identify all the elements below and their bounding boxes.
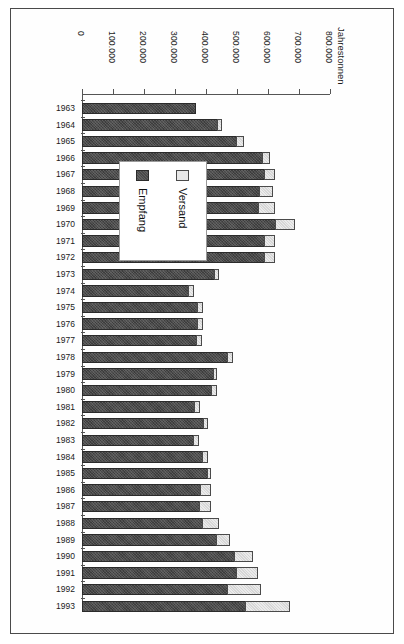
year-label: 1980 bbox=[41, 382, 75, 399]
bar-segment-versand[interactable] bbox=[203, 418, 208, 430]
bar-segment-empfang[interactable] bbox=[82, 335, 197, 347]
legend-swatch-empfang-icon bbox=[136, 170, 149, 181]
bar-segment-empfang[interactable] bbox=[82, 119, 218, 131]
stacked-bar[interactable] bbox=[82, 136, 244, 148]
stacked-bar[interactable] bbox=[82, 484, 211, 496]
bar-segment-versand[interactable] bbox=[213, 368, 218, 380]
stacked-bar[interactable] bbox=[82, 584, 261, 596]
year-label: 1986 bbox=[41, 482, 75, 499]
bar-segment-versand[interactable] bbox=[216, 534, 230, 546]
bar-segment-empfang[interactable] bbox=[82, 435, 194, 447]
bar-segment-versand[interactable] bbox=[199, 501, 211, 513]
bar-segment-empfang[interactable] bbox=[82, 103, 196, 115]
stacked-bar[interactable] bbox=[82, 534, 230, 546]
bar-segment-versand[interactable] bbox=[262, 152, 270, 164]
bar-segment-versand[interactable] bbox=[234, 551, 253, 563]
bar-segment-versand[interactable] bbox=[264, 252, 275, 264]
bar-segment-versand[interactable] bbox=[217, 119, 222, 131]
bar-segment-empfang[interactable] bbox=[82, 302, 198, 314]
stacked-bar[interactable] bbox=[82, 435, 199, 447]
stacked-bar[interactable] bbox=[82, 119, 222, 131]
stacked-bar[interactable] bbox=[82, 103, 196, 115]
bar-segment-versand[interactable] bbox=[202, 518, 219, 530]
bar-segment-versand[interactable] bbox=[202, 451, 208, 463]
x-tick-label: 0 bbox=[76, 31, 86, 36]
stacked-bar[interactable] bbox=[82, 401, 200, 413]
bar-row: 1975 bbox=[11, 299, 393, 316]
bar-segment-versand[interactable] bbox=[193, 435, 199, 447]
bar-segment-versand[interactable] bbox=[200, 484, 211, 496]
year-label: 1993 bbox=[41, 598, 75, 615]
bar-segment-versand[interactable] bbox=[245, 601, 290, 613]
bar-segment-versand[interactable] bbox=[188, 285, 194, 297]
x-tick-label: 300.000 bbox=[169, 31, 179, 63]
bar-segment-versand[interactable] bbox=[259, 186, 273, 198]
bar-segment-empfang[interactable] bbox=[82, 451, 203, 463]
bar-segment-versand[interactable] bbox=[196, 335, 202, 347]
bar-segment-empfang[interactable] bbox=[82, 136, 237, 148]
bar-segment-versand[interactable] bbox=[227, 352, 233, 364]
bar-segment-versand[interactable] bbox=[258, 202, 275, 214]
stacked-bar[interactable] bbox=[82, 318, 203, 330]
x-tick-label: 700.000 bbox=[293, 31, 303, 63]
bar-segment-versand[interactable] bbox=[264, 169, 275, 181]
y-tick bbox=[81, 166, 85, 167]
stacked-bar[interactable] bbox=[82, 601, 290, 613]
bar-segment-empfang[interactable] bbox=[82, 385, 212, 397]
bar-segment-versand[interactable] bbox=[197, 318, 203, 330]
y-tick bbox=[81, 332, 85, 333]
stacked-bar[interactable] bbox=[82, 518, 219, 530]
x-axis-title: Jahrestonnen bbox=[336, 27, 347, 85]
bar-row: 1980 bbox=[11, 382, 393, 399]
x-tick bbox=[330, 89, 331, 94]
stacked-bar[interactable] bbox=[82, 368, 217, 380]
stacked-bar[interactable] bbox=[82, 302, 203, 314]
bar-segment-empfang[interactable] bbox=[82, 601, 246, 613]
bar-segment-empfang[interactable] bbox=[82, 418, 204, 430]
stacked-bar[interactable] bbox=[82, 451, 208, 463]
y-tick bbox=[81, 548, 85, 549]
bar-segment-empfang[interactable] bbox=[82, 352, 228, 364]
bar-segment-versand[interactable] bbox=[194, 401, 200, 413]
stacked-bar[interactable] bbox=[82, 468, 211, 480]
bar-segment-empfang[interactable] bbox=[82, 584, 228, 596]
bar-segment-empfang[interactable] bbox=[82, 318, 198, 330]
bar-segment-empfang[interactable] bbox=[82, 534, 217, 546]
bar-segment-empfang[interactable] bbox=[82, 468, 208, 480]
bar-segment-versand[interactable] bbox=[211, 385, 217, 397]
bar-segment-empfang[interactable] bbox=[82, 551, 235, 563]
bar-segment-empfang[interactable] bbox=[82, 285, 189, 297]
y-tick bbox=[81, 598, 85, 599]
stacked-bar[interactable] bbox=[82, 551, 253, 563]
stacked-bar[interactable] bbox=[82, 352, 233, 364]
stacked-bar[interactable] bbox=[82, 335, 202, 347]
bar-segment-empfang[interactable] bbox=[82, 401, 195, 413]
bar-segment-empfang[interactable] bbox=[82, 518, 203, 530]
stacked-bar[interactable] bbox=[82, 418, 208, 430]
bar-segment-versand[interactable] bbox=[197, 302, 203, 314]
bar-segment-empfang[interactable] bbox=[82, 501, 200, 513]
x-tick bbox=[144, 89, 145, 94]
bar-segment-versand[interactable] bbox=[236, 567, 258, 579]
stacked-bar[interactable] bbox=[82, 285, 194, 297]
bar-segment-versand[interactable] bbox=[227, 584, 261, 596]
bar-segment-empfang[interactable] bbox=[82, 368, 214, 380]
bar-segment-versand[interactable] bbox=[275, 219, 295, 231]
legend-item-versand: Versand bbox=[164, 168, 204, 260]
stacked-bar[interactable] bbox=[82, 567, 258, 579]
x-tick bbox=[299, 89, 300, 94]
bar-segment-empfang[interactable] bbox=[82, 269, 215, 281]
y-tick bbox=[81, 133, 85, 134]
bar-segment-versand[interactable] bbox=[264, 235, 275, 247]
bar-segment-versand[interactable] bbox=[214, 269, 219, 281]
bar-segment-empfang[interactable] bbox=[82, 484, 201, 496]
bar-segment-versand[interactable] bbox=[236, 136, 244, 148]
stacked-bar[interactable] bbox=[82, 269, 219, 281]
bar-segment-empfang[interactable] bbox=[82, 567, 237, 579]
stacked-bar[interactable] bbox=[82, 385, 217, 397]
bar-row: 1965 bbox=[11, 133, 393, 150]
stacked-bar[interactable] bbox=[82, 501, 211, 513]
bar-row: 1976 bbox=[11, 316, 393, 333]
y-tick bbox=[81, 415, 85, 416]
bar-segment-versand[interactable] bbox=[207, 468, 212, 480]
